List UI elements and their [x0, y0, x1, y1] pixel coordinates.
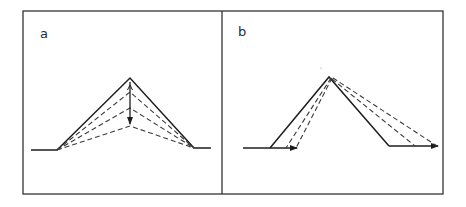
panel-b: b	[238, 24, 438, 148]
panel-b-speck	[320, 67, 321, 68]
outer-border	[23, 11, 443, 194]
figure-frame	[23, 11, 443, 194]
panel-b-dashed-right-slope-2	[333, 78, 437, 146]
panel-b-dashed-left-slope-2	[296, 78, 332, 148]
panel-a-label: a	[40, 26, 48, 41]
panel-b-label: b	[238, 24, 246, 39]
panel-b-ridge-profile	[270, 77, 389, 148]
panel-b-dashed-right-slope-1	[332, 79, 415, 146]
ridge-evolution-diagram: a b	[0, 0, 466, 207]
panel-a: a	[31, 26, 211, 150]
panel-b-dashed-left-slope-1	[286, 78, 331, 148]
